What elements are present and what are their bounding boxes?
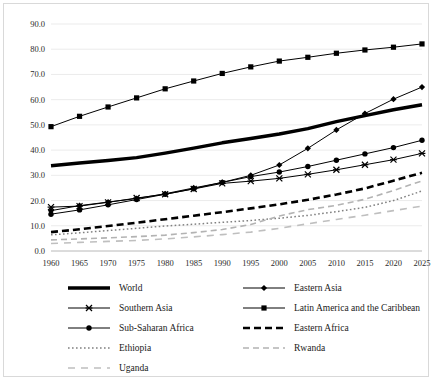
series-point-marker (305, 145, 311, 151)
y-axis-tick-label: 90.0 (30, 19, 45, 29)
legend-line-icon (66, 362, 112, 374)
legend-swatch (241, 282, 287, 294)
series-point-marker (105, 202, 110, 207)
series-point-marker (191, 186, 196, 191)
series-point-marker (390, 96, 396, 102)
legend-line-icon (66, 302, 112, 314)
series-line (51, 181, 422, 240)
series-point-marker (333, 167, 340, 173)
series-point-marker (391, 45, 396, 50)
y-axis-tick-label: 30.0 (30, 170, 45, 180)
y-axis-tick-label: 40.0 (30, 145, 45, 155)
x-axis-tick-label: 1995 (242, 258, 259, 268)
series-point-marker (362, 162, 369, 168)
series-point-marker (333, 127, 339, 133)
series-point-marker (163, 86, 168, 91)
legend-item-label: Ethiopia (119, 342, 151, 354)
legend-swatch (66, 322, 112, 334)
series-point-marker (419, 84, 425, 90)
series-point-marker (334, 51, 339, 56)
legend-item-latin-america-and-the-caribbean[interactable]: Latin America and the Caribbean (241, 302, 420, 314)
legend-item-label: Southern Asia (119, 302, 173, 314)
legend-item-ethiopia[interactable]: Ethiopia (66, 342, 151, 354)
legend-line-icon (241, 322, 287, 334)
series-point-marker (305, 164, 310, 169)
series-point-marker (362, 47, 367, 52)
legend-line-icon (241, 282, 287, 294)
series-point-marker (105, 104, 110, 109)
legend-item-label: Sub-Saharan Africa (119, 322, 194, 334)
y-axis-tick-label: 50.0 (30, 120, 45, 130)
legend-item-eastern-africa[interactable]: Eastern Africa (241, 322, 349, 334)
series-point-marker (162, 192, 167, 197)
x-axis-tick-label: 1960 (43, 258, 60, 268)
x-axis-tick-label: 2025 (414, 258, 431, 268)
legend-item-label: Rwanda (294, 342, 325, 354)
series-point-marker (48, 211, 53, 216)
chart-legend: WorldEastern AsiaSouthern AsiaLatin Amer… (4, 274, 434, 382)
legend-item-label: Eastern Asia (294, 282, 342, 294)
series-point-marker (276, 162, 282, 168)
legend-item-sub-saharan-africa[interactable]: Sub-Saharan Africa (66, 322, 194, 334)
series-point-marker (220, 180, 225, 185)
series-point-marker (77, 114, 82, 119)
series-point-marker (362, 151, 367, 156)
legend-item-uganda[interactable]: Uganda (66, 362, 149, 374)
legend-line-icon (241, 342, 287, 354)
x-axis-tick-label: 1980 (157, 258, 174, 268)
x-axis-tick-label: 1970 (100, 258, 117, 268)
legend-swatch (241, 342, 287, 354)
legend-line-icon (66, 322, 112, 334)
legend-item-label: World (119, 282, 143, 294)
legend-swatch (66, 342, 112, 354)
legend-swatch (241, 322, 287, 334)
legend-swatch (66, 282, 112, 294)
x-axis-tick-label: 1975 (128, 258, 145, 268)
line-chart-svg: 0.010.020.030.040.050.060.070.080.090.01… (4, 4, 434, 274)
series-point-marker (304, 171, 311, 177)
y-axis-tick-label: 10.0 (30, 221, 45, 231)
series-point-marker (419, 138, 424, 143)
series-point-marker (191, 78, 196, 83)
series-point-marker (419, 41, 424, 46)
series-point-marker (419, 150, 426, 156)
legend-item-eastern-asia[interactable]: Eastern Asia (241, 282, 342, 294)
x-axis-tick-label: 2010 (328, 258, 345, 268)
x-axis-tick-label: 1990 (214, 258, 231, 268)
series-point-marker (276, 175, 283, 181)
series-point-marker (220, 71, 225, 76)
series-point-marker (248, 174, 253, 179)
x-axis-tick-label: 2005 (299, 258, 316, 268)
legend-item-southern-asia[interactable]: Southern Asia (66, 302, 173, 314)
x-axis-tick-label: 1965 (71, 258, 88, 268)
series-point-marker (277, 169, 282, 174)
series-line (51, 191, 422, 235)
legend-line-icon (66, 342, 112, 354)
legend-item-label: Eastern Africa (294, 322, 349, 334)
chart-frame: 0.010.020.030.040.050.060.070.080.090.01… (3, 3, 429, 377)
y-axis-tick-label: 60.0 (30, 95, 45, 105)
series-point-marker (134, 95, 139, 100)
legend-line-icon (66, 282, 112, 294)
series-point-marker (134, 197, 139, 202)
x-axis-tick-label: 2020 (385, 258, 402, 268)
y-axis-tick-label: 80.0 (30, 44, 45, 54)
x-axis-tick-label: 2015 (356, 258, 373, 268)
legend-swatch (66, 302, 112, 314)
series-point-marker (77, 207, 82, 212)
x-axis-tick-label: 2000 (271, 258, 288, 268)
legend-item-rwanda[interactable]: Rwanda (241, 342, 325, 354)
series-point-marker (391, 145, 396, 150)
legend-swatch (66, 362, 112, 374)
series-point-marker (248, 64, 253, 69)
y-axis-tick-label: 70.0 (30, 69, 45, 79)
series-point-marker (334, 158, 339, 163)
legend-item-label: Latin America and the Caribbean (294, 302, 420, 314)
y-axis-tick-label: 20.0 (30, 196, 45, 206)
chart-plot-area: 0.010.020.030.040.050.060.070.080.090.01… (4, 4, 434, 274)
series-point-marker (305, 55, 310, 60)
legend-swatch (241, 302, 287, 314)
x-axis-tick-label: 1985 (185, 258, 202, 268)
legend-line-icon (241, 302, 287, 314)
legend-item-world[interactable]: World (66, 282, 143, 294)
